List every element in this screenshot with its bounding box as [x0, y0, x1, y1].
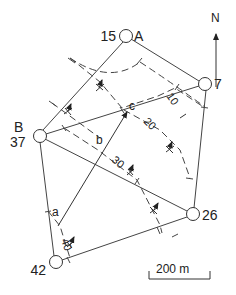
slope-arrow-icon — [127, 165, 134, 175]
station-A-marker — [120, 30, 133, 43]
station-26-height: 26 — [202, 207, 218, 223]
contour-10 — [70, 58, 205, 107]
line-A-7 — [131, 39, 199, 81]
contour-interpolation-diagram: 15 A 7 B 37 26 42 a b c 10 20 30 40 N 20… — [0, 0, 236, 295]
slope-arrow-icon — [180, 114, 186, 118]
station-7-height: 7 — [214, 76, 222, 92]
contour-10-main — [70, 58, 205, 108]
station-B-height: 37 — [10, 134, 26, 150]
scale-bar-label: 200 m — [156, 262, 189, 276]
station-B-marker — [34, 130, 47, 143]
north-label: N — [211, 11, 220, 25]
station-A-height: 15 — [100, 28, 116, 44]
slope-markers — [64, 80, 186, 248]
station-42-height: 42 — [30, 262, 46, 278]
point-c-label: c — [129, 99, 135, 113]
station-B-label: B — [14, 119, 23, 135]
route-line — [58, 112, 127, 226]
station-42-marker — [50, 256, 63, 269]
contour-40-label: 40 — [59, 237, 74, 253]
station-A-label: A — [134, 28, 144, 44]
station-7-marker — [199, 78, 212, 91]
contour-lines — [48, 58, 205, 258]
line-42-26 — [62, 217, 187, 260]
slope-arrow-icon — [166, 142, 174, 153]
stations — [34, 30, 212, 269]
station-26-marker — [187, 208, 200, 221]
point-b-label: b — [96, 133, 103, 147]
line-B-42 — [40, 142, 54, 256]
survey-lines — [40, 39, 206, 260]
line-A-B — [43, 42, 123, 130]
contour-20-label: 20 — [142, 115, 159, 132]
contour-30-label: 30 — [110, 153, 127, 170]
point-a-label: a — [52, 205, 59, 219]
contour-30 — [64, 128, 162, 233]
line-B-26 — [45, 139, 187, 211]
